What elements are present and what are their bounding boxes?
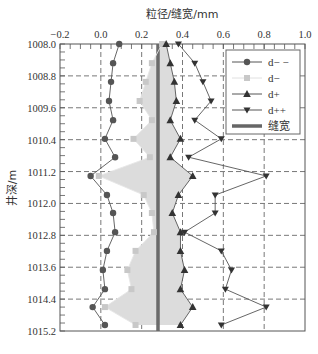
y-tick-label: 1009.6 [27, 103, 56, 114]
y-tick-label: 1015.2 [27, 326, 56, 337]
x-tick-label: 1.0 [298, 29, 311, 40]
legend-label: d++ [268, 104, 286, 116]
legend-label: d− [268, 72, 280, 84]
legend-label: d+ [268, 88, 280, 100]
y-tick-label: 1008.0 [27, 39, 56, 50]
y-tick-labels: 1008.01008.81009.61010.41011.21012.01012… [27, 39, 57, 337]
x-axis-title: 粒径/缝宽/mm [146, 7, 219, 21]
legend-label: 缝宽 [268, 119, 290, 132]
y-tick-label: 1012.8 [27, 230, 56, 241]
y-tick-label: 1012.0 [27, 198, 56, 209]
x-tick-label: 0.2 [135, 29, 148, 40]
x-tick-label: 0.0 [94, 29, 107, 40]
legend-label: d− − [268, 56, 289, 68]
x-tick-labels: −0.20.00.20.40.60.81.0 [50, 29, 311, 40]
y-tick-label: 1010.4 [27, 135, 57, 146]
legend: d− −d−d+d++缝宽 [226, 50, 300, 134]
y-tick-label: 1013.6 [27, 262, 56, 273]
x-tick-label: 0.6 [217, 29, 230, 40]
x-tick-label: 0.8 [258, 29, 271, 40]
chart: 粒径/缝宽/mm −0.20.00.20.40.60.81.0 1008.010… [0, 0, 318, 354]
y-tick-label: 1014.4 [27, 294, 57, 305]
y-axis-title: 井深/m [5, 170, 19, 206]
y-tick-label: 1008.8 [27, 71, 56, 82]
y-tick-label: 1011.2 [28, 167, 57, 178]
x-tick-label: 0.4 [176, 29, 190, 40]
